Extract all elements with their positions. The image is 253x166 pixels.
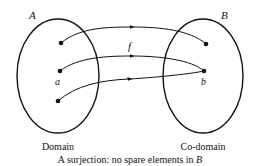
element-dot-a2	[58, 69, 63, 74]
mapping-arrow-2	[60, 56, 132, 71]
element-dot-a3	[56, 99, 61, 104]
domain-caption: Domain	[42, 141, 74, 152]
mapping-arrow-2-tail	[132, 56, 204, 71]
element-dot-a1	[59, 41, 64, 46]
mapping-arrow-3	[58, 79, 130, 101]
function-label: f	[128, 40, 133, 52]
caption-text: A surjection: no spare elements in	[58, 154, 196, 165]
element-dot-b2	[202, 69, 207, 74]
element-dot-b1	[204, 42, 209, 47]
mapping-arrow-3-tail	[130, 71, 204, 79]
surjection-diagram: A B a b f Domain Co-domain A surjection:…	[0, 0, 253, 166]
figure-caption: A surjection: no spare elements in B	[58, 154, 202, 165]
mapping-arrow-1-tail	[132, 27, 206, 44]
codomain-caption: Co-domain	[181, 141, 226, 152]
set-b-label: B	[221, 9, 228, 21]
element-a-label: a	[55, 76, 60, 87]
set-a-label: A	[28, 9, 36, 21]
element-b-label: b	[201, 76, 206, 87]
caption-set-name: B	[196, 154, 202, 165]
mapping-arrow-1	[61, 27, 132, 43]
